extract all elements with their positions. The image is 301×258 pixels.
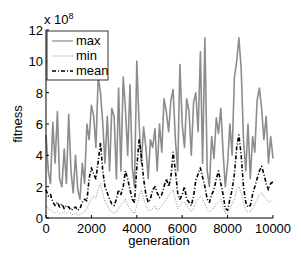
y-exponent-label: x 108 [44,11,74,27]
x-axis-label: generation [128,233,189,248]
legend-label-min: min [76,48,97,63]
legend: max min mean [47,31,109,80]
legend-label-mean: mean [76,63,109,78]
legend-label-max: max [76,33,101,48]
y-exponent-power: 8 [69,11,74,21]
y-axis-label: fitness [10,105,25,143]
x-tick-label: 8000 [213,221,242,236]
y-tick-label: 12 [29,23,43,38]
x-tick-label: 10000 [255,221,291,236]
x-tick-label: 2000 [77,221,106,236]
y-tick-label: 4 [36,148,43,163]
fitness-chart: 0200040006000800010000024681012 x 108 ge… [0,0,301,258]
y-tick-label: 8 [36,86,43,101]
x-tick-label: 0 [42,221,49,236]
y-tick-label: 2 [36,180,43,195]
y-tick-label: 6 [36,117,43,132]
y-tick-label: 10 [29,54,43,69]
y-tick-label: 0 [36,211,43,226]
